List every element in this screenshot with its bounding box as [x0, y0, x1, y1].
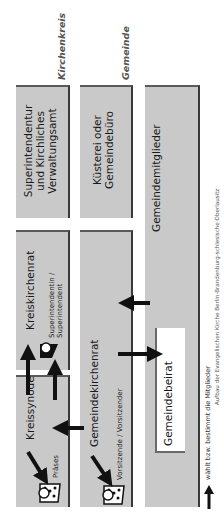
arrow-gkr-to-vorsitzende [92, 456, 108, 480]
caption: Aufbau der Evangelischen Kirche Berlin-B… [214, 189, 220, 405]
arrows-layer [0, 0, 224, 525]
arrow-synode-to-praeses [28, 452, 44, 478]
arrow-up-icon [204, 485, 214, 509]
legend-text: wählt bzw. bestimmt die Mitglieder [204, 366, 212, 480]
